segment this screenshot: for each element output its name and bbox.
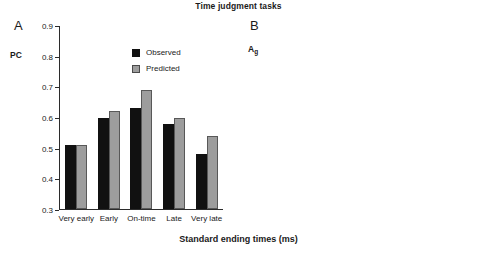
x-tick-label: Very early [59,214,95,223]
y-tick-mark [55,26,59,27]
bar-observed-very-late[interactable] [196,154,207,209]
panel-b-y-axis-label: Ag [248,44,258,55]
panel-a-letter: A [14,18,23,33]
legend-swatch-icon [132,65,140,73]
panel-a-y-axis-label: PC [10,50,22,60]
panel-a-legend: ObservedPredicted [132,48,181,80]
y-tick-label: 0.4 [42,175,53,184]
y-tick-mark [55,149,59,150]
legend-item-observed[interactable]: Observed [132,48,181,57]
y-tick-mark [55,57,59,58]
panel-a: A PC 0.30.40.50.60.70.80.9 Very earlyEar… [0,0,238,256]
y-tick-mark [55,210,59,211]
bar-observed-on-time[interactable] [130,108,141,209]
panel-a-x-axis-line [59,209,223,210]
legend-item-predicted[interactable]: Predicted [132,64,181,73]
x-tick-label: On-time [127,214,155,223]
y-tick-label: 0.3 [42,206,53,215]
panel-b-y-axis-label-subscript: g [254,48,258,55]
bar-predicted-late[interactable] [174,118,185,210]
bar-observed-early[interactable] [98,118,109,210]
y-tick-label: 0.6 [42,114,53,123]
panel-b: B Ag 0.40.50.60.70.80.91 524600676 30050… [238,0,477,256]
x-tick-label: Late [166,214,182,223]
bar-group: Very early [60,26,93,209]
bar-predicted-very-early[interactable] [76,145,87,209]
bar-observed-late[interactable] [163,124,174,209]
shared-x-axis-label: Standard ending times (ms) [0,234,477,244]
legend-label: Predicted [146,64,180,73]
panel-b-letter: B [250,18,259,33]
y-tick-label: 0.9 [42,22,53,31]
bar-predicted-on-time[interactable] [141,90,152,209]
bar-group: Very late [190,26,223,209]
y-tick-label: 0.5 [42,144,53,153]
y-tick-mark [55,118,59,119]
bar-predicted-very-late[interactable] [207,136,218,209]
legend-label: Observed [146,48,181,57]
x-tick-label: Early [100,214,118,223]
bar-predicted-early[interactable] [109,111,120,209]
y-tick-label: 0.7 [42,83,53,92]
bar-group: Early [93,26,126,209]
x-tick-label: Very late [191,214,222,223]
bar-observed-very-early[interactable] [65,145,76,209]
legend-swatch-icon [132,49,140,57]
y-tick-mark [55,179,59,180]
y-tick-label: 0.8 [42,52,53,61]
y-tick-mark [55,87,59,88]
figure-canvas: Time judgment tasks A PC 0.30.40.50.60.7… [0,0,477,256]
